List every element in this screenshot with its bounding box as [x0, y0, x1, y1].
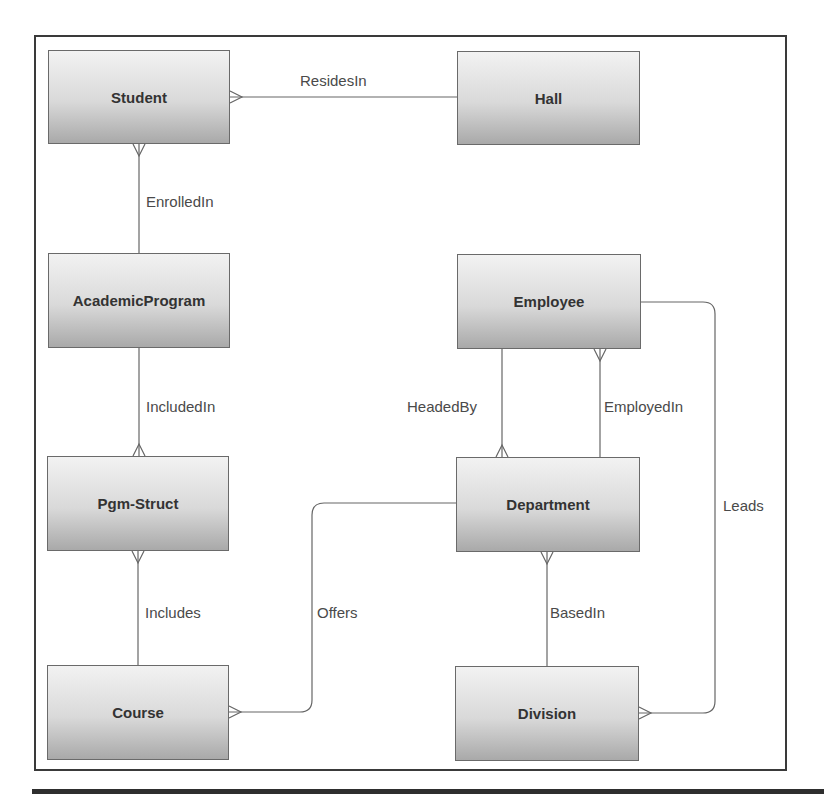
entity-label: Student: [111, 89, 167, 106]
edge-leads: [639, 302, 715, 713]
relationship-label-includes: Includes: [145, 604, 201, 621]
entity-label: Hall: [535, 90, 563, 107]
entity-label: Department: [506, 496, 589, 513]
entity-employee[interactable]: Employee: [457, 254, 641, 349]
entity-label: Course: [112, 704, 164, 721]
entity-label: AcademicProgram: [73, 292, 206, 309]
entity-course[interactable]: Course: [47, 665, 229, 760]
relationship-label-employedin: EmployedIn: [604, 398, 683, 415]
entity-academic-program[interactable]: AcademicProgram: [48, 253, 230, 348]
bottom-rule-divider: [32, 789, 824, 794]
entity-department[interactable]: Department: [456, 457, 640, 552]
entity-label: Pgm-Struct: [98, 495, 179, 512]
relationship-label-basedin: BasedIn: [550, 604, 605, 621]
entity-student[interactable]: Student: [48, 50, 230, 144]
relationship-label-enrolledin: EnrolledIn: [146, 193, 214, 210]
entity-hall[interactable]: Hall: [457, 51, 640, 145]
relationship-label-residesin: ResidesIn: [300, 72, 367, 89]
relationship-label-leads: Leads: [723, 497, 764, 514]
entity-label: Employee: [514, 293, 585, 310]
relationship-label-offers: Offers: [317, 604, 358, 621]
relationship-label-headedby: HeadedBy: [407, 398, 477, 415]
entity-label: Division: [518, 705, 576, 722]
relationship-label-includedin: IncludedIn: [146, 398, 215, 415]
entity-pgm-struct[interactable]: Pgm-Struct: [47, 456, 229, 551]
entity-division[interactable]: Division: [455, 666, 639, 761]
